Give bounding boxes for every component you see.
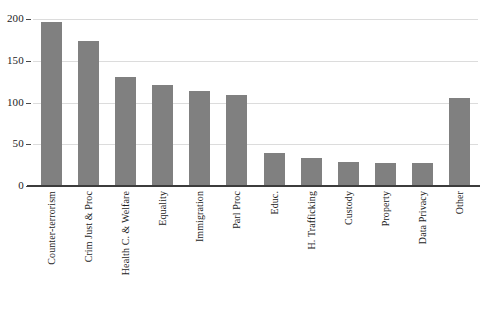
bar (264, 153, 285, 186)
x-axis-category-label: Counter-terrorism (41, 189, 62, 289)
plot-area (33, 19, 478, 186)
gridline (33, 144, 478, 145)
y-axis-tick-label: 150 (7, 55, 24, 66)
x-axis-line (27, 185, 480, 187)
x-axis-category-label: H. Trafficking (301, 189, 322, 289)
y-axis-tick (26, 103, 31, 104)
x-axis-category-label: Immigration (189, 189, 210, 289)
bar (226, 95, 247, 186)
y-axis-labels: 050100150200 (0, 0, 24, 309)
x-axis-category-label: Property (375, 189, 396, 289)
x-axis-category-label-text: Parl Proc (232, 191, 242, 229)
bar (152, 85, 173, 186)
bar (115, 77, 136, 186)
bar (78, 41, 99, 186)
y-axis-tick (26, 144, 31, 145)
x-axis-category-label-text: H. Trafficking (307, 191, 317, 249)
x-axis-category-label: Educ. (264, 189, 285, 289)
bar (338, 162, 359, 186)
x-axis-category-label-text: Data Privacy (418, 191, 428, 244)
y-axis-tick-label: 50 (13, 138, 24, 149)
x-axis-category-label-text: Equality (158, 191, 168, 226)
bar (301, 158, 322, 186)
x-axis-category-label: Health C. & Welfare (115, 189, 136, 289)
gridline (33, 61, 478, 62)
x-axis-category-label-text: Crim Just & Proc (84, 191, 94, 262)
y-axis-tick-label: 100 (7, 97, 24, 108)
bar (449, 98, 470, 186)
bar (189, 91, 210, 186)
x-axis-labels: Counter-terrorismCrim Just & ProcHealth … (33, 189, 478, 294)
x-axis-category-label: Equality (152, 189, 173, 289)
x-axis-category-label: Data Privacy (412, 189, 433, 289)
x-axis-category-label-text: Counter-terrorism (47, 191, 57, 265)
y-axis-tick (26, 61, 31, 62)
x-axis-category-label-text: Educ. (270, 191, 280, 215)
x-axis-category-label-text: Property (381, 191, 391, 226)
bar (375, 163, 396, 186)
y-axis-tick-label: 200 (7, 13, 24, 24)
figure-caption (0, 300, 490, 309)
bar-chart-figure: 050100150200 Counter-terrorismCrim Just … (0, 0, 490, 309)
x-axis-category-label: Parl Proc (226, 189, 247, 289)
x-axis-category-label-text: Immigration (195, 191, 205, 242)
x-axis-category-label-text: Other (455, 191, 465, 214)
x-axis-category-label: Custody (338, 189, 359, 289)
x-axis-category-label-text: Custody (344, 191, 354, 225)
bar (412, 163, 433, 186)
x-axis-category-label: Crim Just & Proc (78, 189, 99, 289)
gridline (33, 103, 478, 104)
bar (41, 22, 62, 186)
gridline (33, 19, 478, 20)
x-axis-category-label: Other (449, 189, 470, 289)
x-axis-category-label-text: Health C. & Welfare (121, 191, 131, 275)
y-axis-tick (26, 19, 31, 20)
y-axis-tick-label: 0 (18, 180, 24, 191)
